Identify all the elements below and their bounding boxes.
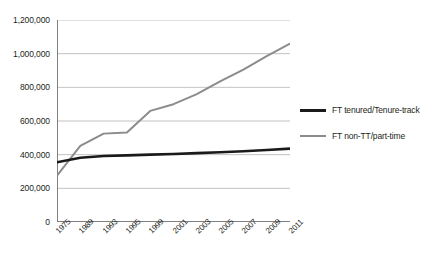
y-axis-tick-label: 1,200,000 [13,15,50,25]
legend-label-ft-non-tt: FT non-TT/part-time [332,131,405,141]
y-axis-tick-label: 200,000 [20,183,50,193]
y-axis-tick-label: 0 [45,217,50,227]
legend-item-ft-tenured: FT tenured/Tenure-track [300,100,428,120]
legend-swatch-ft-tenured [300,109,326,112]
legend-label-ft-tenured: FT tenured/Tenure-track [332,105,420,115]
y-axis-tick-label: 800,000 [20,82,50,92]
legend-swatch-ft-non-tt [300,135,326,137]
chart-legend: FT tenured/Tenure-track FT non-TT/part-t… [300,100,428,152]
y-axis-tick-label: 600,000 [20,116,50,126]
plot-area [57,20,290,222]
plot-svg [57,20,290,222]
y-axis-tick-label: 400,000 [20,150,50,160]
chart-figure: 0200,000400,000600,000800,0001,000,0001,… [0,0,430,259]
y-axis-tick-labels: 0200,000400,000600,000800,0001,000,0001,… [0,0,54,259]
series-line [57,149,290,163]
legend-item-ft-non-tt: FT non-TT/part-time [300,126,428,146]
y-axis-tick-label: 1,000,000 [13,49,50,59]
